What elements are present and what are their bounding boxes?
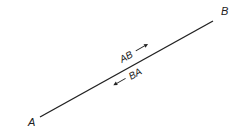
left-arrow-icon [112, 77, 126, 87]
point-b-label: B [221, 5, 228, 17]
right-arrow-icon [135, 42, 149, 52]
line-segment-diagram: A B AB BA [0, 0, 243, 130]
point-a-label: A [27, 116, 35, 128]
forward-label: AB [117, 49, 135, 66]
segment-ab [40, 21, 213, 117]
